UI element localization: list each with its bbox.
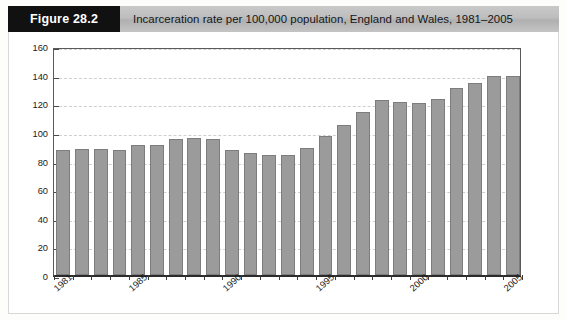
bar-series [54,49,520,275]
bar [393,102,407,275]
bar [150,145,164,275]
bar [375,100,389,275]
bar [450,88,464,275]
plot-area: 020406080100120140160 198119851990199520… [53,48,521,277]
x-axis-tick [447,275,448,280]
bar [187,138,201,275]
x-axis-tick-label: 1995 [314,272,336,293]
y-axis-tick-label: 0 [22,272,48,282]
bar-chart: 020406080100120140160 198119851990199520… [0,0,566,320]
bar [206,139,220,275]
x-axis-tick [316,275,317,280]
x-axis-tick [54,275,55,280]
y-axis-tick-label: 100 [22,129,48,139]
x-axis-tick [503,275,504,280]
y-axis-tick-label: 160 [22,43,48,53]
bar [75,149,89,275]
bar [169,139,183,275]
x-axis-tick [110,275,111,280]
bar [356,112,370,275]
x-axis-tick [222,275,223,280]
x-axis-tick-label: 1985 [127,272,149,293]
x-axis-tick [372,275,373,280]
bar [113,150,127,275]
y-axis-tick-label: 60 [22,186,48,196]
bar [506,76,520,275]
bar [412,103,426,275]
x-axis-tick-label: 2005 [502,272,524,293]
x-axis-tick [129,275,130,280]
x-axis-tick [91,275,92,280]
x-axis-tick [466,275,467,280]
bar [225,150,239,275]
y-axis-tick-label: 40 [22,215,48,225]
x-axis-tick-label: 2000 [408,272,430,293]
bar [131,145,145,275]
bar [337,125,351,275]
x-axis-tick [297,275,298,280]
bar [262,155,276,275]
y-axis-tick-label: 20 [22,243,48,253]
bar [319,136,333,275]
bar [468,83,482,275]
x-axis-tick [166,275,167,280]
y-axis-tick-label: 140 [22,72,48,82]
x-axis-tick [204,275,205,280]
bar [431,99,445,275]
x-axis-tick-label: 1981 [52,272,74,293]
x-axis-tick [279,275,280,280]
bar [94,149,108,275]
bar [300,148,314,275]
bar [487,76,501,275]
figure-container: Figure 28.2 Incarceration rate per 100,0… [0,0,566,320]
x-axis-tick-label: 1990 [221,272,243,293]
bar [56,150,70,275]
x-axis-tick [485,275,486,280]
x-axis-tick [260,275,261,280]
x-axis-tick [410,275,411,280]
x-axis-tick [391,275,392,280]
bar [281,155,295,275]
y-axis-tick-label: 120 [22,100,48,110]
x-axis-tick [185,275,186,280]
y-axis-tick-label: 80 [22,158,48,168]
bar [244,153,258,275]
x-axis-tick [354,275,355,280]
